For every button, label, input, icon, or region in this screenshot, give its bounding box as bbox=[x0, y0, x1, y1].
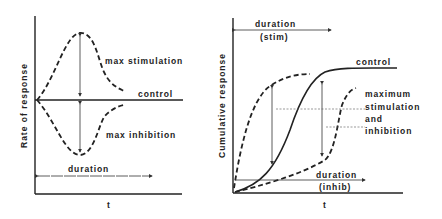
left-x-axis-label: t bbox=[107, 200, 111, 210]
maximum-label: maximum bbox=[365, 89, 411, 99]
right-panel: Cumulative response t duration (stim) co… bbox=[217, 18, 420, 210]
left-y-axis-label: Rate of response bbox=[19, 63, 29, 148]
diagram: Rate of response t control max stimulati… bbox=[0, 0, 442, 219]
inhibition-label: inhibition bbox=[365, 126, 412, 136]
max-stimulation-label: max stimulation bbox=[105, 56, 183, 66]
control-label: control bbox=[138, 89, 173, 99]
duration-stim-label: duration bbox=[255, 19, 296, 29]
max-inhibition-label: max inhibition bbox=[106, 130, 176, 140]
duration-inhib-sublabel: (inhib) bbox=[319, 182, 351, 192]
and-label: and bbox=[365, 114, 383, 124]
right-x-axis-label: t bbox=[323, 200, 327, 210]
stimulation-curve bbox=[37, 33, 124, 100]
duration-label: duration bbox=[68, 164, 109, 174]
left-panel: Rate of response t control max stimulati… bbox=[19, 16, 183, 210]
stimulation-label: stimulation bbox=[365, 102, 420, 112]
right-y-axis-label: Cumulative response bbox=[217, 53, 227, 158]
right-control-label: control bbox=[356, 57, 391, 67]
inhibition-curve bbox=[37, 100, 124, 155]
duration-inhib-label: duration bbox=[316, 170, 357, 180]
duration-stim-sublabel: (stim) bbox=[260, 32, 289, 42]
